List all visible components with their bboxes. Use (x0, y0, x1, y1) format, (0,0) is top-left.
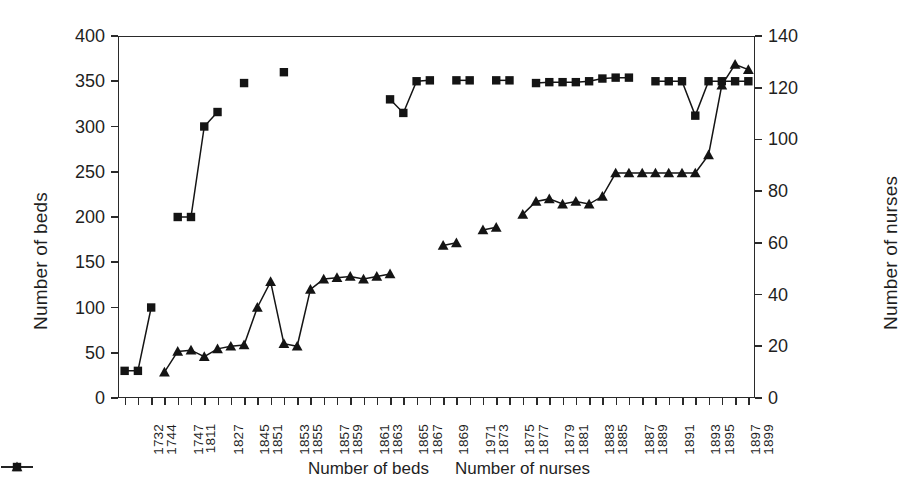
nurses-line (523, 64, 749, 214)
y-axis-left-tick-label: 250 (75, 163, 105, 181)
y-axis-left-tick (111, 397, 118, 399)
x-axis-tick-label: 1877 (535, 424, 550, 454)
x-axis-tick-label: 1895 (721, 424, 736, 454)
beds-marker (240, 79, 248, 87)
beds-line (390, 80, 430, 113)
y-axis-left-tick-label: 150 (75, 253, 105, 271)
chart-root: Number of beds Number of nurses 05010015… (0, 0, 898, 499)
legend-item-nurses[interactable]: Number of nurses (455, 460, 590, 477)
triangle-marker-icon (0, 460, 34, 474)
beds-marker (704, 77, 712, 85)
nurses-marker (743, 64, 754, 74)
beds-marker (545, 78, 553, 86)
beds-marker (598, 74, 606, 82)
y-axis-left-tick (111, 307, 118, 309)
beds-marker (744, 77, 752, 85)
beds-marker (174, 213, 182, 221)
beds-line (655, 81, 748, 115)
nurses-marker (186, 345, 197, 355)
y-axis-left-tick-label: 200 (75, 208, 105, 226)
beds-marker (134, 367, 142, 375)
x-axis-tick-label: 1811 (203, 424, 218, 453)
nurses-marker (451, 237, 462, 247)
y-axis-left-tick-label: 0 (95, 389, 105, 407)
x-axis-tick-label: 1744 (164, 424, 179, 454)
nurses-marker (159, 367, 170, 377)
x-axis-tick-label: 1881 (575, 424, 590, 454)
series-layer (118, 36, 795, 402)
beds-marker (558, 78, 566, 86)
nurses-marker (385, 268, 396, 278)
beds-marker (280, 68, 288, 76)
y-axis-left-tick (111, 35, 118, 37)
beds-marker (187, 213, 195, 221)
beds-marker (399, 109, 407, 117)
x-axis-tick-label: 1851 (270, 424, 285, 454)
y-axis-left-tick (111, 352, 118, 354)
y-axis-left-tick (111, 171, 118, 173)
x-axis-tick-label: 1891 (681, 424, 696, 454)
beds-marker (492, 76, 500, 84)
nurses-marker (703, 150, 714, 160)
y-axis-left-tick (111, 261, 118, 263)
x-axis-tick-label: 1859 (350, 424, 365, 454)
y-axis-left-tick-label: 350 (75, 72, 105, 90)
x-axis-tick-label: 1855 (310, 424, 325, 454)
plot-area: 050100150200250300350400 020406080100120… (118, 36, 755, 398)
beds-marker (572, 78, 580, 86)
nurses-line (164, 274, 390, 372)
nurses-marker (544, 194, 555, 204)
y-axis-right-title: Number of nurses (880, 176, 898, 330)
x-axis-tick-label: 1889 (655, 424, 670, 454)
beds-marker (465, 76, 473, 84)
beds-marker (426, 76, 434, 84)
legend-label: Number of beds (308, 460, 429, 477)
x-axis-tick-label: 1899 (761, 424, 776, 454)
beds-marker (651, 77, 659, 85)
beds-marker (678, 77, 686, 85)
beds-marker (452, 76, 460, 84)
y-axis-left-tick-label: 300 (75, 118, 105, 136)
nurses-marker (345, 271, 356, 281)
nurses-marker (305, 284, 316, 294)
beds-line (125, 308, 152, 371)
x-axis-tick-label: 1827 (230, 424, 245, 454)
beds-marker (147, 303, 155, 311)
beds-marker (120, 367, 128, 375)
y-axis-left-tick (111, 80, 118, 82)
y-axis-left-tick (111, 126, 118, 128)
legend-label: Number of nurses (455, 460, 590, 477)
beds-marker (200, 122, 208, 130)
beds-marker (386, 95, 394, 103)
y-axis-left-tick-label: 50 (85, 344, 105, 362)
nurses-marker (491, 222, 502, 232)
x-axis-tick-label: 1885 (615, 424, 630, 454)
beds-marker (611, 73, 619, 81)
legend-item-beds[interactable]: Number of beds (308, 460, 429, 477)
nurses-marker (278, 338, 289, 348)
beds-marker (585, 77, 593, 85)
nurses-marker (570, 196, 581, 206)
y-axis-left-tick-label: 100 (75, 299, 105, 317)
beds-line (178, 112, 218, 217)
beds-marker (532, 79, 540, 87)
x-axis-tick-label: 1863 (390, 424, 405, 454)
beds-marker (691, 111, 699, 119)
nurses-marker (239, 340, 250, 350)
beds-marker (625, 73, 633, 81)
nurses-marker (597, 191, 608, 201)
x-axis-tick-label: 1867 (429, 424, 444, 454)
beds-marker (665, 77, 673, 85)
nurses-marker (252, 302, 263, 312)
nurses-marker (730, 59, 741, 69)
x-axis-tick-label: 1869 (456, 424, 471, 454)
beds-marker (213, 108, 221, 116)
nurses-marker (265, 276, 276, 286)
y-axis-left-title: Number of beds (30, 192, 52, 330)
y-axis-left-tick-label: 400 (75, 27, 105, 45)
beds-marker (731, 77, 739, 85)
y-axis-left-tick (111, 216, 118, 218)
nurses-marker (199, 351, 210, 361)
x-axis-tick-label: 1873 (496, 424, 511, 454)
beds-marker (505, 76, 513, 84)
